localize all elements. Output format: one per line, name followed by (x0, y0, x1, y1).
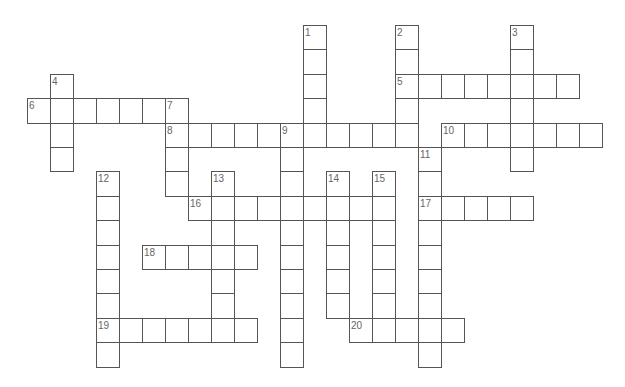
crossword-cell[interactable] (188, 123, 212, 148)
crossword-cell[interactable] (142, 318, 166, 343)
crossword-cell[interactable] (418, 293, 442, 318)
crossword-cell[interactable] (280, 220, 304, 245)
crossword-cell[interactable] (326, 269, 350, 294)
crossword-cell[interactable] (487, 196, 511, 221)
crossword-cell[interactable] (234, 245, 258, 270)
crossword-cell[interactable] (188, 318, 212, 343)
crossword-cell[interactable]: 19 (96, 318, 120, 343)
crossword-cell[interactable]: 5 (395, 74, 419, 99)
crossword-cell[interactable] (372, 245, 396, 270)
crossword-cell[interactable] (510, 147, 534, 172)
crossword-cell[interactable] (326, 196, 350, 221)
crossword-cell[interactable] (280, 245, 304, 270)
crossword-cell[interactable]: 9 (280, 123, 304, 148)
crossword-cell[interactable] (303, 123, 327, 148)
crossword-cell[interactable]: 17 (418, 196, 442, 221)
crossword-cell[interactable] (211, 318, 235, 343)
crossword-cell[interactable] (234, 196, 258, 221)
crossword-cell[interactable] (280, 318, 304, 343)
crossword-cell[interactable] (96, 98, 120, 123)
crossword-cell[interactable]: 8 (165, 123, 189, 148)
crossword-cell[interactable]: 6 (27, 98, 51, 123)
crossword-cell[interactable] (142, 98, 166, 123)
crossword-cell[interactable]: 14 (326, 171, 350, 196)
crossword-cell[interactable] (96, 196, 120, 221)
crossword-cell[interactable] (418, 342, 442, 367)
crossword-cell[interactable] (556, 74, 580, 99)
crossword-cell[interactable] (165, 245, 189, 270)
crossword-cell[interactable]: 11 (418, 147, 442, 172)
crossword-cell[interactable]: 18 (142, 245, 166, 270)
crossword-cell[interactable] (303, 196, 327, 221)
crossword-cell[interactable] (556, 123, 580, 148)
crossword-cell[interactable]: 20 (349, 318, 373, 343)
crossword-cell[interactable] (165, 147, 189, 172)
crossword-cell[interactable] (280, 171, 304, 196)
crossword-cell[interactable] (464, 74, 488, 99)
crossword-cell[interactable] (211, 245, 235, 270)
crossword-cell[interactable] (441, 318, 465, 343)
crossword-cell[interactable]: 16 (188, 196, 212, 221)
crossword-cell[interactable]: 3 (510, 25, 534, 50)
crossword-cell[interactable] (211, 220, 235, 245)
crossword-cell[interactable] (326, 293, 350, 318)
crossword-cell[interactable] (418, 74, 442, 99)
crossword-cell[interactable] (464, 196, 488, 221)
crossword-cell[interactable] (349, 196, 373, 221)
crossword-cell[interactable] (188, 245, 212, 270)
crossword-cell[interactable] (211, 269, 235, 294)
crossword-cell[interactable] (395, 123, 419, 148)
crossword-cell[interactable] (303, 49, 327, 74)
crossword-cell[interactable] (119, 98, 143, 123)
crossword-cell[interactable] (418, 220, 442, 245)
crossword-cell[interactable] (303, 74, 327, 99)
crossword-cell[interactable]: 7 (165, 98, 189, 123)
crossword-cell[interactable] (372, 196, 396, 221)
crossword-cell[interactable] (326, 123, 350, 148)
crossword-cell[interactable] (418, 269, 442, 294)
crossword-cell[interactable] (418, 245, 442, 270)
crossword-cell[interactable] (96, 269, 120, 294)
crossword-cell[interactable]: 1 (303, 25, 327, 50)
crossword-cell[interactable] (487, 74, 511, 99)
crossword-cell[interactable] (372, 318, 396, 343)
crossword-cell[interactable] (395, 49, 419, 74)
crossword-cell[interactable] (372, 269, 396, 294)
crossword-cell[interactable] (165, 318, 189, 343)
crossword-cell[interactable] (510, 196, 534, 221)
crossword-cell[interactable]: 15 (372, 171, 396, 196)
crossword-cell[interactable] (326, 245, 350, 270)
crossword-cell[interactable] (50, 147, 74, 172)
crossword-cell[interactable] (280, 147, 304, 172)
crossword-cell[interactable] (510, 123, 534, 148)
crossword-cell[interactable] (211, 293, 235, 318)
crossword-cell[interactable] (441, 74, 465, 99)
crossword-cell[interactable] (510, 49, 534, 74)
crossword-cell[interactable] (510, 98, 534, 123)
crossword-cell[interactable]: 12 (96, 171, 120, 196)
crossword-cell[interactable] (579, 123, 603, 148)
crossword-cell[interactable] (418, 171, 442, 196)
crossword-cell[interactable]: 4 (50, 74, 74, 99)
crossword-cell[interactable] (280, 342, 304, 367)
crossword-cell[interactable]: 2 (395, 25, 419, 50)
crossword-cell[interactable] (372, 293, 396, 318)
crossword-cell[interactable] (96, 220, 120, 245)
crossword-cell[interactable] (211, 123, 235, 148)
crossword-cell[interactable] (50, 123, 74, 148)
crossword-cell[interactable] (395, 318, 419, 343)
crossword-cell[interactable] (418, 318, 442, 343)
crossword-cell[interactable] (510, 74, 534, 99)
crossword-cell[interactable] (464, 123, 488, 148)
crossword-cell[interactable] (395, 98, 419, 123)
crossword-cell[interactable] (533, 123, 557, 148)
crossword-cell[interactable] (280, 196, 304, 221)
crossword-cell[interactable] (280, 293, 304, 318)
crossword-cell[interactable] (257, 196, 281, 221)
crossword-cell[interactable] (96, 342, 120, 367)
crossword-cell[interactable] (349, 123, 373, 148)
crossword-cell[interactable] (372, 220, 396, 245)
crossword-cell[interactable] (165, 171, 189, 196)
crossword-cell[interactable] (234, 318, 258, 343)
crossword-cell[interactable] (487, 123, 511, 148)
